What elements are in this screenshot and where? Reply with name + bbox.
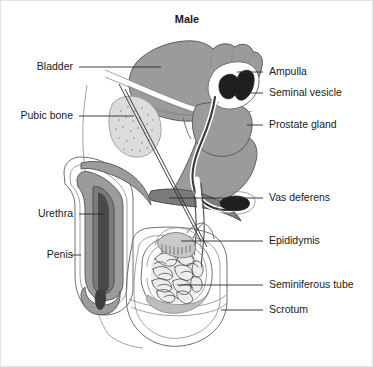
label-seminal-vesicle: Seminal vesicle bbox=[269, 86, 342, 98]
label-group-right: Ampulla Seminal vesicle Prostate gland V… bbox=[269, 65, 354, 315]
figure-title: Male bbox=[175, 13, 199, 25]
label-seminiferous-tube: Seminiferous tube bbox=[269, 278, 354, 290]
label-ampulla: Ampulla bbox=[269, 65, 307, 77]
label-vas-deferens: Vas deferens bbox=[269, 191, 330, 203]
groin-contour bbox=[109, 335, 143, 348]
label-group-left: Bladder Pubic bone Urethra Penis bbox=[20, 60, 73, 260]
penis-structure bbox=[64, 157, 151, 315]
label-urethra: Urethra bbox=[38, 207, 73, 219]
label-prostate-gland: Prostate gland bbox=[269, 118, 337, 130]
label-penis: Penis bbox=[47, 248, 73, 260]
anatomy-diagram-canvas: Male bbox=[1, 1, 373, 367]
label-bladder: Bladder bbox=[37, 60, 74, 72]
label-scrotum: Scrotum bbox=[269, 303, 308, 315]
anatomy-figure: Male bbox=[0, 0, 373, 367]
label-pubic-bone: Pubic bone bbox=[20, 109, 73, 121]
label-epididymis: Epididymis bbox=[269, 234, 320, 246]
urethra-channel bbox=[98, 193, 109, 294]
